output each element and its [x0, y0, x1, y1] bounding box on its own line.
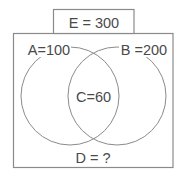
- set-a-label: A=100: [28, 42, 70, 58]
- intersection-label: C=60: [76, 89, 111, 105]
- venn-diagram: E = 300 A=100 B =200 C=60 D = ?: [0, 0, 183, 175]
- universe-label: E = 300: [69, 15, 119, 31]
- outside-label: D = ?: [75, 150, 110, 166]
- set-b-label: B =200: [121, 42, 167, 58]
